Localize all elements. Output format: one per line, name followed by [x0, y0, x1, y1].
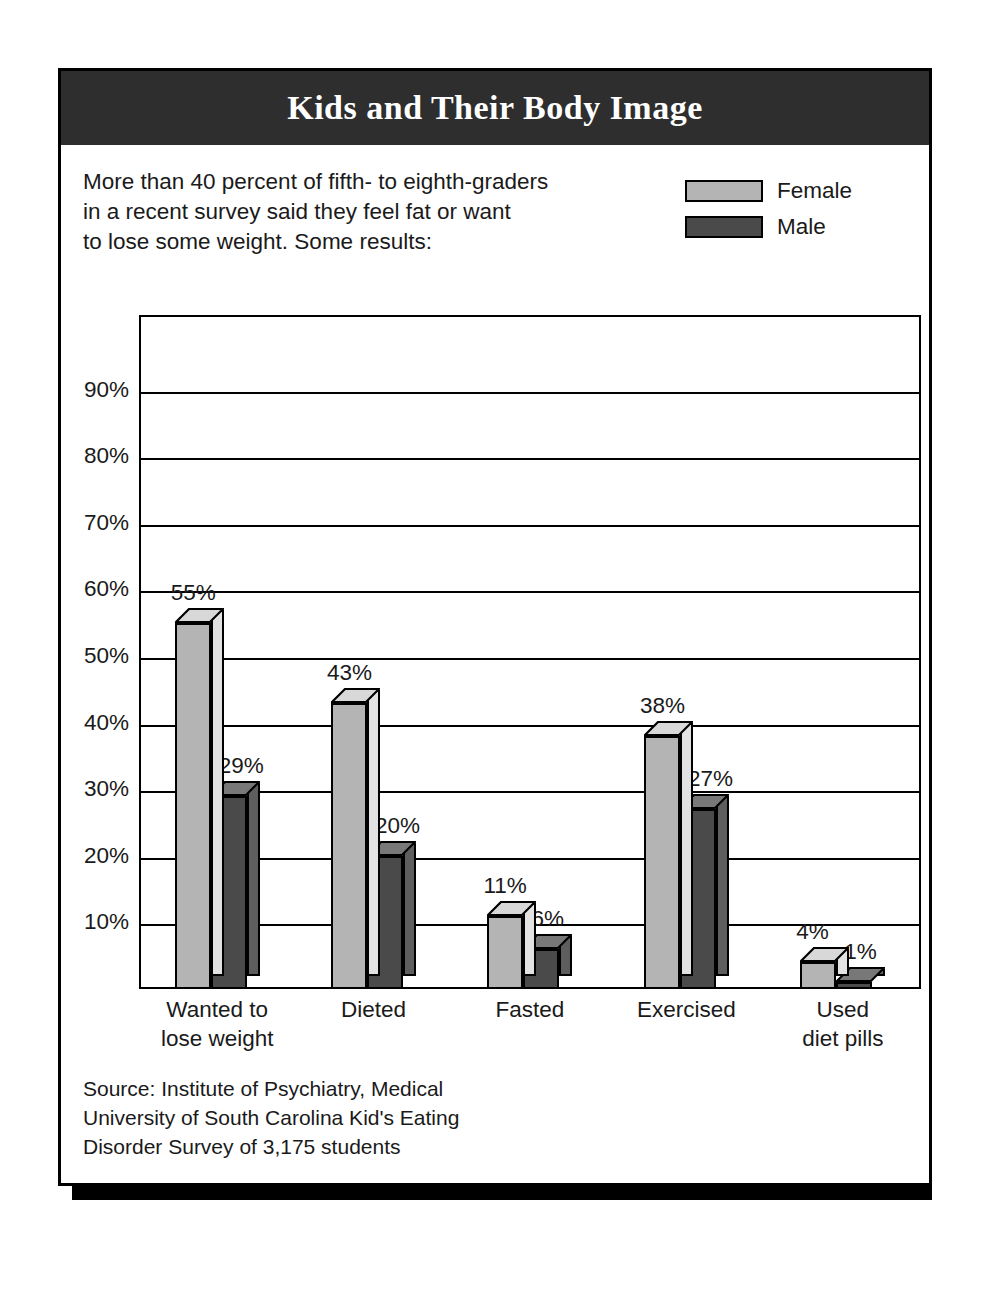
gridline-80	[141, 458, 919, 460]
chart-plot-area: 10%20%30%40%50%60%70%80%90% 55%29%43%20%…	[61, 303, 929, 1043]
y-tick-label-40: 40%	[84, 710, 129, 736]
gridline-40	[141, 725, 919, 727]
y-tick-label-10: 10%	[84, 909, 129, 935]
legend-item-male: Male	[685, 210, 915, 244]
source-note: Source: Institute of Psychiatry, Medical…	[83, 1074, 703, 1161]
gridline-50	[141, 658, 919, 660]
x-axis-category-labels: Wanted to lose weightDietedFastedExercis…	[139, 995, 921, 1075]
x-category-label: Used diet pills	[765, 995, 921, 1053]
x-category-label: Fasted	[452, 995, 608, 1024]
y-tick-label-60: 60%	[84, 576, 129, 602]
plot-frame	[139, 315, 921, 989]
title-bar: Kids and Their Body Image	[61, 71, 929, 145]
y-tick-label-90: 90%	[84, 377, 129, 403]
y-tick-label-30: 30%	[84, 776, 129, 802]
gridline-30	[141, 791, 919, 793]
gridline-60	[141, 591, 919, 593]
gridline-90	[141, 392, 919, 394]
legend-label-male: Male	[777, 214, 826, 240]
legend-swatch-male	[685, 216, 763, 238]
gridline-10	[141, 924, 919, 926]
y-tick-label-70: 70%	[84, 510, 129, 536]
y-tick-label-80: 80%	[84, 443, 129, 469]
legend-item-female: Female	[685, 174, 915, 208]
x-category-label: Wanted to lose weight	[139, 995, 295, 1053]
gridline-20	[141, 858, 919, 860]
y-tick-label-20: 20%	[84, 843, 129, 869]
legend-label-female: Female	[777, 178, 852, 204]
legend-swatch-female	[685, 180, 763, 202]
intro-paragraph: More than 40 percent of fifth- to eighth…	[83, 167, 643, 257]
page-title: Kids and Their Body Image	[287, 89, 703, 127]
gridline-70	[141, 525, 919, 527]
legend: Female Male	[685, 174, 915, 246]
y-tick-label-50: 50%	[84, 643, 129, 669]
x-category-label: Exercised	[608, 995, 764, 1024]
infographic-card: Kids and Their Body Image More than 40 p…	[58, 68, 932, 1186]
x-category-label: Dieted	[295, 995, 451, 1024]
y-axis-tick-labels: 10%20%30%40%50%60%70%80%90%	[61, 315, 129, 989]
